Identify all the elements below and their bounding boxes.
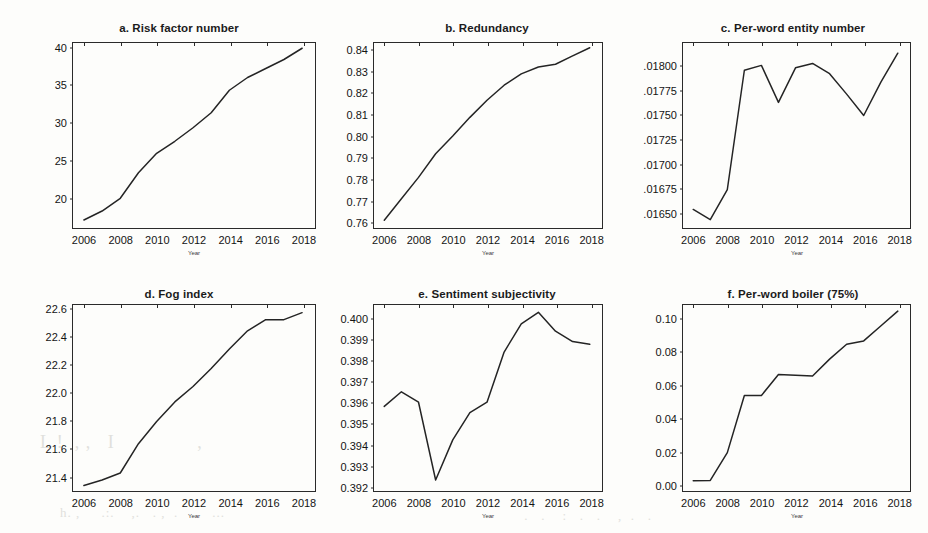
panel-f-ytick-mark	[680, 452, 684, 453]
panel-d-ytick-label: 21.4	[46, 472, 67, 484]
panel-e-sentiment-subjectivity: e. Sentiment subjectivity 0.3920.3930.39…	[316, 266, 616, 533]
panel-a-xtick-mark	[231, 43, 232, 47]
panel-e-xtick-label: 2006	[372, 497, 396, 509]
panel-e-xtick-mark	[384, 305, 385, 309]
panel-a-ytick-mark	[70, 199, 74, 200]
panel-c-xtick-label: 2008	[715, 234, 739, 246]
panel-e-xtick-label: 2012	[476, 497, 500, 509]
panel-f-ytick-label: 0.06	[656, 380, 677, 392]
panel-f-ytick-mark	[680, 385, 684, 386]
panel-b-xtick-mark	[384, 43, 385, 47]
panel-a-ytick-label: 40	[55, 42, 67, 54]
panel-a-xtick-mark	[84, 43, 85, 47]
panel-c-xtick-mark	[762, 43, 763, 47]
panel-e-ytick-mark	[371, 339, 375, 340]
panel-f-xtick-mark	[693, 305, 694, 309]
panel-d-ytick-mark	[70, 308, 74, 309]
figure-canvas: h. , .:. ,. . , . . ... . . : . . , . . …	[0, 0, 928, 533]
panel-b-xaxis-title: Year	[482, 250, 494, 256]
panel-b-ytick-label: 0.83	[347, 66, 368, 78]
panel-b-ytick-mark	[371, 158, 375, 159]
panel-c-xtick-label: 2018	[887, 234, 911, 246]
panel-f-xtick-label: 2012	[784, 497, 808, 509]
panel-f-ytick-label: 0.00	[656, 480, 677, 492]
panel-c-ytick-label: .01750	[643, 109, 677, 121]
panel-e-plot: 0.3920.3930.3940.3950.3960.3970.3980.399…	[316, 266, 616, 533]
panel-b-xtick-label: 2016	[545, 234, 569, 246]
panel-a-xtick-label: 2008	[108, 234, 132, 246]
panel-e-xtick-label: 2014	[510, 497, 534, 509]
panel-b-xtick-mark	[523, 43, 524, 47]
panel-a-series	[73, 43, 315, 228]
panel-c-ytick-mark	[680, 213, 684, 214]
panel-e-ytick-mark	[371, 318, 375, 319]
panel-d-ytick-mark	[70, 336, 74, 337]
panel-e-ytick-label: 0.398	[340, 355, 368, 367]
panel-e-xtick-mark	[419, 305, 420, 309]
panel-b-ytick-label: 0.79	[347, 152, 368, 164]
panel-b-ytick-mark	[371, 114, 375, 115]
panel-c-xtick-label: 2006	[681, 234, 705, 246]
panel-b-xtick-label: 2014	[510, 234, 534, 246]
panel-e-xtick-mark	[488, 305, 489, 309]
panel-d-xtick-mark	[121, 305, 122, 309]
panel-f-xtick-label: 2010	[750, 497, 774, 509]
panel-f-series	[683, 305, 910, 491]
panel-a-xtick-label: 2006	[72, 234, 96, 246]
panel-c-axes: .01650.01675.01700.01725.01750.01775.018…	[682, 42, 911, 229]
panel-b-xtick-label: 2006	[372, 234, 396, 246]
panel-c-series	[683, 43, 910, 228]
panel-e-ytick-label: 0.396	[340, 397, 368, 409]
panel-e-ytick-mark	[371, 424, 375, 425]
panel-c-plot: .01650.01675.01700.01725.01750.01775.018…	[616, 0, 928, 266]
panel-e-ytick-mark	[371, 487, 375, 488]
panel-c-ytick-label: .01775	[643, 85, 677, 97]
panel-b-xtick-mark	[557, 43, 558, 47]
panel-f-xtick-mark	[900, 305, 901, 309]
panel-a-ytick-mark	[70, 85, 74, 86]
panel-f-xtick-label: 2016	[853, 497, 877, 509]
panel-d-xtick-mark	[267, 305, 268, 309]
panel-c-ytick-mark	[680, 90, 684, 91]
panel-c-xtick-mark	[831, 43, 832, 47]
panel-d-xtick-label: 2012	[182, 497, 206, 509]
panel-a-ytick-mark	[70, 161, 74, 162]
panel-a-xtick-label: 2014	[218, 234, 242, 246]
panel-b-xtick-label: 2010	[441, 234, 465, 246]
panel-e-ytick-label: 0.394	[340, 440, 368, 452]
panel-e-xtick-label: 2010	[441, 497, 465, 509]
panel-d-ytick-mark	[70, 477, 74, 478]
panel-b-xtick-mark	[592, 43, 593, 47]
panel-d-ytick-label: 22.6	[46, 303, 67, 315]
panel-grid: a. Risk factor number 202530354020062008…	[0, 0, 928, 533]
panel-f-ytick-label: 0.10	[656, 313, 677, 325]
panel-c-ytick-mark	[680, 189, 684, 190]
panel-b-ytick-label: 0.77	[347, 196, 368, 208]
panel-b-plot: 0.760.770.780.790.800.810.820.830.842006…	[316, 0, 616, 266]
panel-d-xtick-label: 2014	[218, 497, 242, 509]
panel-a-ytick-label: 20	[55, 193, 67, 205]
panel-d-axes: 21.421.621.822.022.222.422.6200620082010…	[72, 304, 316, 492]
panel-e-ytick-mark	[371, 382, 375, 383]
panel-d-xtick-label: 2010	[145, 497, 169, 509]
panel-f-xtick-label: 2008	[715, 497, 739, 509]
panel-e-xaxis-title: Year	[482, 513, 494, 519]
panel-b-ytick-mark	[371, 49, 375, 50]
panel-d-ytick-mark	[70, 364, 74, 365]
panel-f-ytick-mark	[680, 318, 684, 319]
panel-c-per-word-entity-number: c. Per-word entity number .01650.01675.0…	[616, 0, 928, 266]
panel-f-xaxis-title: Year	[791, 513, 803, 519]
panel-d-ytick-mark	[70, 393, 74, 394]
panel-b-xtick-mark	[488, 43, 489, 47]
panel-a-ytick-mark	[70, 123, 74, 124]
panel-a-xtick-mark	[157, 43, 158, 47]
panel-f-ytick-label: 0.02	[656, 447, 677, 459]
panel-c-xtick-mark	[728, 43, 729, 47]
panel-e-axes: 0.3920.3930.3940.3950.3960.3970.3980.399…	[373, 304, 603, 492]
panel-f-ytick-mark	[680, 419, 684, 420]
panel-c-ytick-label: .01725	[643, 134, 677, 146]
panel-b-ytick-label: 0.80	[347, 131, 368, 143]
panel-e-xtick-label: 2018	[579, 497, 603, 509]
panel-c-ytick-label: .01675	[643, 183, 677, 195]
panel-d-fog-index: d. Fog index 21.421.621.822.022.222.422.…	[0, 266, 316, 533]
